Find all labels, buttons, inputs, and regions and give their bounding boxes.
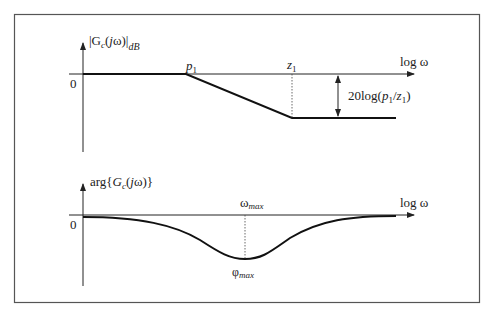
magnitude-zero-label: 0 bbox=[70, 76, 77, 91]
phase-zero-label: 0 bbox=[70, 217, 77, 232]
omega-max-label: ωmax bbox=[240, 195, 264, 211]
phase-plot: arg{Gc(jω)} 0 ωmax φmax log ω bbox=[69, 174, 429, 286]
phase-x-label: log ω bbox=[400, 195, 429, 210]
z1-label: z1 bbox=[286, 57, 297, 74]
p1-label: p1 bbox=[185, 58, 197, 75]
magnitude-x-label: log ω bbox=[400, 54, 429, 69]
magnitude-plot: |Gc(jω)|dB 0 p1 z1 log ω 20log(p1/z1) bbox=[69, 33, 429, 152]
lag-compensator-bode-diagram: |Gc(jω)|dB 0 p1 z1 log ω 20log(p1/z1) ar… bbox=[0, 0, 492, 316]
gain-drop-annotation: 20log(p1/z1) bbox=[348, 88, 410, 105]
phase-y-label: arg{Gc(jω)} bbox=[90, 174, 153, 191]
phi-max-label: φmax bbox=[232, 265, 254, 280]
magnitude-y-label: |Gc(jω)|dB bbox=[89, 33, 140, 52]
phase-curve bbox=[83, 216, 396, 259]
